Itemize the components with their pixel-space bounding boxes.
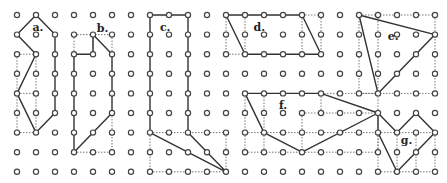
grid-dot (90, 12, 95, 17)
grid-dot (185, 52, 190, 57)
grid-dot (299, 12, 304, 17)
grid-dot (413, 110, 418, 115)
grid-dot (128, 71, 133, 76)
grid-dot (242, 52, 247, 57)
grid-dot (128, 169, 133, 174)
grid-dot (14, 91, 19, 96)
grid-dot (280, 130, 285, 135)
grid-dot (185, 32, 190, 37)
grid-dot (204, 169, 209, 174)
grid-dot (356, 130, 361, 135)
grid-dot (318, 91, 323, 96)
grid-dot (33, 52, 38, 57)
grid-dot (204, 130, 209, 135)
grid-dot (33, 91, 38, 96)
grid-dot (413, 71, 418, 76)
grid-dot (71, 150, 76, 155)
grid-dot (394, 52, 399, 57)
grid-dot (223, 91, 228, 96)
grid-dot (356, 91, 361, 96)
grid-dot (33, 110, 38, 115)
grid-dot (356, 110, 361, 115)
grid-dot (432, 130, 437, 135)
grid-dot (90, 130, 95, 135)
grid-dot (413, 150, 418, 155)
grid-dot (204, 12, 209, 17)
grid-dot (33, 150, 38, 155)
grid-dot (318, 150, 323, 155)
grid-dot (185, 12, 190, 17)
grid-dot (71, 91, 76, 96)
grid-dot (185, 110, 190, 115)
grid-dot (280, 91, 285, 96)
grid-dot (128, 110, 133, 115)
grid-dot (394, 91, 399, 96)
grid-dot (71, 71, 76, 76)
grid-dot (337, 32, 342, 37)
grid-dot (356, 12, 361, 17)
grid-dot (52, 32, 57, 37)
grid-dot (71, 32, 76, 37)
grid-dot (394, 150, 399, 155)
grid-dot (318, 169, 323, 174)
grid-dot (185, 71, 190, 76)
grid-dot (318, 32, 323, 37)
grid-dot (299, 150, 304, 155)
grid-dot (147, 150, 152, 155)
grid-dot (147, 130, 152, 135)
grid-dot (52, 52, 57, 57)
grid-dot (90, 91, 95, 96)
grid-dot (33, 169, 38, 174)
grid-dot (147, 52, 152, 57)
grid-dot (242, 169, 247, 174)
grid-dot (90, 32, 95, 37)
figure-label-c: c. (160, 21, 171, 32)
grid-dot (299, 130, 304, 135)
grid-dot (413, 169, 418, 174)
grid-dot (128, 130, 133, 135)
grid-dot (261, 110, 266, 115)
grid-dot (356, 169, 361, 174)
grid-dot (185, 91, 190, 96)
grid-dot (166, 52, 171, 57)
grid-dot (318, 130, 323, 135)
grid-dot (166, 150, 171, 155)
grid-dot (242, 32, 247, 37)
grid-dot (166, 71, 171, 76)
grid-dot (52, 71, 57, 76)
grid-dot (337, 52, 342, 57)
grid-dot (109, 150, 114, 155)
grid-dot (14, 150, 19, 155)
grid-dot (185, 130, 190, 135)
grid-dot (337, 130, 342, 135)
grid-dot (128, 12, 133, 17)
grid-dot (14, 110, 19, 115)
grid-dot (261, 52, 266, 57)
grid-dot (242, 71, 247, 76)
grid-dot (166, 91, 171, 96)
grid-dot (356, 71, 361, 76)
grid-dot (375, 130, 380, 135)
grid-dot (337, 12, 342, 17)
grid-dot (147, 110, 152, 115)
grid-dot (261, 130, 266, 135)
grid-dot (280, 52, 285, 57)
grid-dot (299, 71, 304, 76)
grid-dot (394, 130, 399, 135)
figure-label-a: a. (32, 21, 43, 32)
figure-polygon-d (226, 15, 321, 54)
grid-dot (14, 52, 19, 57)
grid-dot (52, 130, 57, 135)
grid-dot (299, 110, 304, 115)
grid-dot (204, 71, 209, 76)
grid-dot (356, 150, 361, 155)
grid-dot (33, 130, 38, 135)
grid-dot (280, 71, 285, 76)
grid-dot (128, 32, 133, 37)
grid-dot (432, 91, 437, 96)
grid-dot (109, 71, 114, 76)
grid-dot (109, 52, 114, 57)
grid-dot (261, 12, 266, 17)
grid-dot (261, 150, 266, 155)
grid-dot (109, 91, 114, 96)
